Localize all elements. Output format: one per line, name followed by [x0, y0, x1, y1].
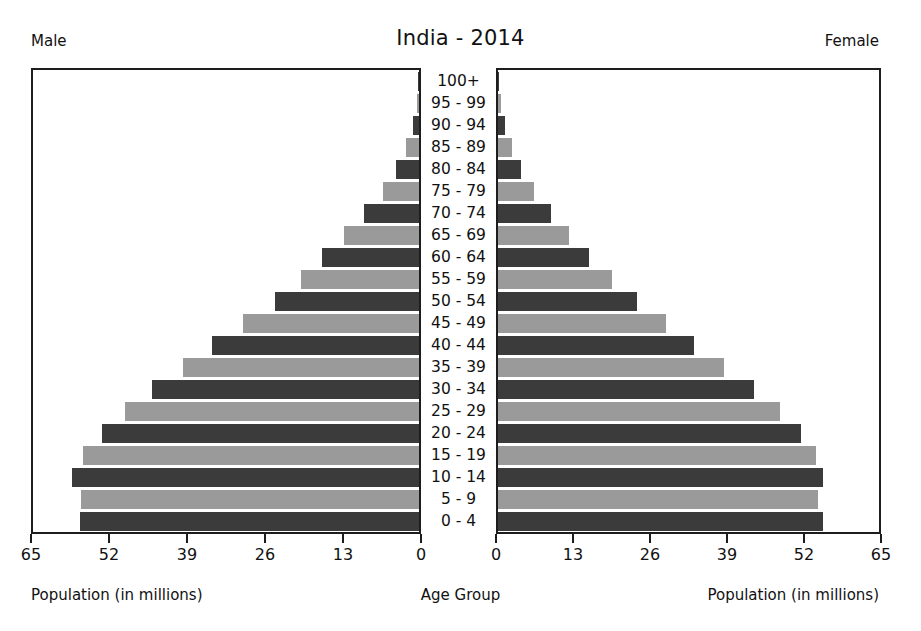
female-bar: [498, 468, 823, 487]
male-bar: [72, 468, 419, 487]
male-plot-area: [31, 68, 421, 534]
female-bar: [498, 380, 754, 399]
male-bar: [275, 292, 419, 311]
female-bar-row: [498, 158, 879, 180]
male-bar-row: [33, 510, 419, 532]
female-bar: [498, 446, 816, 465]
axis-tick: [803, 534, 805, 543]
age-group-label: 55 - 59: [421, 268, 496, 290]
axis-tick: [30, 534, 32, 543]
female-bar: [498, 336, 694, 355]
age-group-label: 95 - 99: [421, 92, 496, 114]
axis-tick-label: 26: [255, 545, 275, 564]
female-side-label: Female: [825, 32, 879, 50]
age-group-label: 80 - 84: [421, 158, 496, 180]
male-bar-row: [33, 136, 419, 158]
age-group-label: 0 - 4: [421, 510, 496, 532]
male-bar-row: [33, 444, 419, 466]
female-bar-row: [498, 92, 879, 114]
male-bar-row: [33, 180, 419, 202]
male-bar: [102, 424, 419, 443]
male-bar: [125, 402, 419, 421]
female-bar: [498, 138, 512, 157]
male-bar: [417, 94, 419, 113]
male-bar: [418, 72, 419, 91]
male-bar: [406, 138, 419, 157]
male-bar-row: [33, 70, 419, 92]
age-group-label: 60 - 64: [421, 246, 496, 268]
female-bar-row: [498, 400, 879, 422]
female-bar-row: [498, 444, 879, 466]
female-bar: [498, 182, 534, 201]
male-bar: [152, 380, 419, 399]
male-bar-row: [33, 158, 419, 180]
male-x-axis: 65523926130: [31, 534, 421, 574]
axis-tick-label: 39: [717, 545, 737, 564]
male-bar-row: [33, 422, 419, 444]
male-bar-row: [33, 356, 419, 378]
female-bar: [498, 116, 505, 135]
male-bar-row: [33, 290, 419, 312]
male-bar: [383, 182, 419, 201]
axis-tick: [649, 534, 651, 543]
axis-tick-label: 52: [794, 545, 814, 564]
axis-tick-label: 13: [563, 545, 583, 564]
axis-tick-label: 39: [177, 545, 197, 564]
male-bar-row: [33, 92, 419, 114]
axis-tick: [880, 534, 882, 543]
female-bar-row: [498, 290, 879, 312]
female-bar-row: [498, 488, 879, 510]
chart-title: India - 2014: [0, 26, 921, 50]
male-bar-row: [33, 224, 419, 246]
female-bar-row: [498, 312, 879, 334]
female-bar-row: [498, 466, 879, 488]
male-bar-row: [33, 334, 419, 356]
axis-tick-label: 0: [416, 545, 426, 564]
male-bar: [183, 358, 419, 377]
female-x-axis: 01326395265: [496, 534, 881, 574]
age-group-label: 10 - 14: [421, 466, 496, 488]
age-group-label: 70 - 74: [421, 202, 496, 224]
female-bar-row: [498, 202, 879, 224]
female-bar-row: [498, 246, 879, 268]
female-bar: [498, 270, 612, 289]
male-bar-row: [33, 246, 419, 268]
female-bar-row: [498, 114, 879, 136]
axis-tick-label: 52: [99, 545, 119, 564]
female-axis-caption: Population (in millions): [707, 586, 879, 604]
axis-tick: [108, 534, 110, 543]
male-bar-row: [33, 114, 419, 136]
male-bar-row: [33, 488, 419, 510]
male-bar-row: [33, 268, 419, 290]
male-bar: [80, 512, 419, 531]
female-bar: [498, 94, 501, 113]
female-plot-area: [496, 68, 881, 534]
female-bar: [498, 72, 499, 91]
axis-tick-label: 26: [640, 545, 660, 564]
axis-tick: [264, 534, 266, 543]
age-group-label: 45 - 49: [421, 312, 496, 334]
female-bar: [498, 160, 521, 179]
female-bar-row: [498, 268, 879, 290]
age-group-label: 50 - 54: [421, 290, 496, 312]
male-bar: [301, 270, 419, 289]
female-bar: [498, 490, 818, 509]
female-bar: [498, 512, 823, 531]
axis-tick: [726, 534, 728, 543]
female-bar-row: [498, 422, 879, 444]
male-bar-row: [33, 466, 419, 488]
age-group-label: 35 - 39: [421, 356, 496, 378]
female-bar-row: [498, 510, 879, 532]
female-bar: [498, 424, 801, 443]
age-group-label: 15 - 19: [421, 444, 496, 466]
axis-tick: [186, 534, 188, 543]
male-bar: [344, 226, 419, 245]
female-bar-row: [498, 378, 879, 400]
male-bar-row: [33, 400, 419, 422]
axis-tick: [572, 534, 574, 543]
male-bar: [81, 490, 419, 509]
female-bar-row: [498, 136, 879, 158]
age-group-label: 40 - 44: [421, 334, 496, 356]
female-bar: [498, 402, 780, 421]
female-bar: [498, 226, 569, 245]
